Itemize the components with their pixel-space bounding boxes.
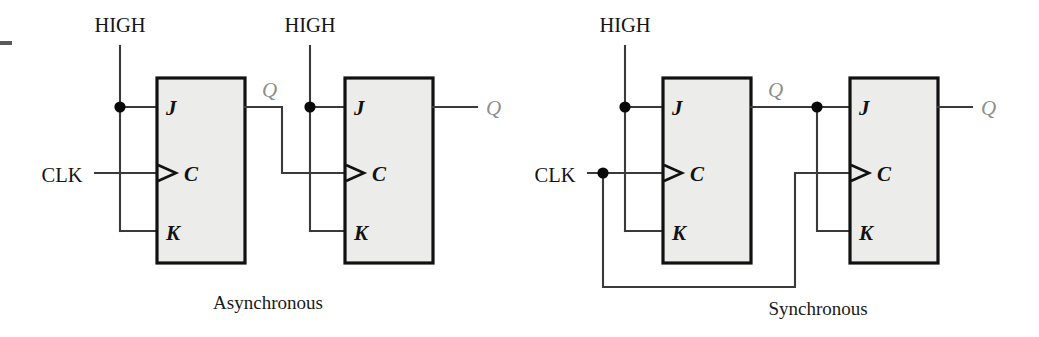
sync-q2-output-label: Q <box>981 96 996 120</box>
async-caption: Asynchronous <box>213 292 323 313</box>
synchronous-circuit: J C K J C K HIGH CLK Q Q Synchronous <box>535 14 997 319</box>
sync-clk-label: CLK <box>535 164 576 186</box>
async-ff2-pin-k-label: K <box>353 221 370 245</box>
sync-clk-junction-dot <box>597 167 608 178</box>
async-high1-junction-dot <box>114 101 125 112</box>
async-high1-label: HIGH <box>94 14 145 36</box>
async-q1-to-c2-wire <box>245 107 345 173</box>
async-ff1-pin-c-label: C <box>184 162 199 186</box>
sync-ff1-pin-k-label: K <box>671 221 688 245</box>
sync-q1-output-label: Q <box>768 78 783 102</box>
async-ff1-pin-j-label: J <box>165 96 178 120</box>
diagram-canvas: J C K J C K HIGH CLK HIGH Q Q Asynchr <box>0 0 1039 337</box>
async-q2-output-label: Q <box>486 96 501 120</box>
jk-flipflop-counter-figure: J C K J C K HIGH CLK HIGH Q Q Asynchr <box>0 0 1039 337</box>
sync-caption: Synchronous <box>768 298 867 319</box>
sync-ff1-pin-c-label: C <box>690 162 705 186</box>
sync-q1-junction-dot <box>811 101 822 112</box>
async-clk-label: CLK <box>42 164 83 186</box>
async-q1-output-label: Q <box>262 78 277 102</box>
async-ff2-pin-c-label: C <box>372 162 387 186</box>
async-high2-label: HIGH <box>284 14 335 36</box>
sync-ff2-pin-c-label: C <box>877 162 892 186</box>
sync-q1-to-k2-wire <box>817 107 850 231</box>
async-high2-junction-dot <box>304 101 315 112</box>
async-ff1-pin-k-label: K <box>165 221 182 245</box>
sync-ff1-pin-j-label: J <box>671 96 684 120</box>
async-ff2-pin-j-label: J <box>353 96 366 120</box>
sync-ff2-pin-k-label: K <box>858 221 875 245</box>
sync-high-junction-dot <box>619 101 630 112</box>
sync-ff2-pin-j-label: J <box>858 96 871 120</box>
sync-high-label: HIGH <box>599 14 650 36</box>
asynchronous-circuit: J C K J C K HIGH CLK HIGH Q Q Asynchr <box>42 14 502 313</box>
